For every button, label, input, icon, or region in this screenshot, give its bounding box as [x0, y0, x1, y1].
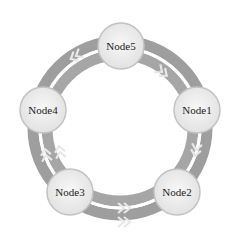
node-node2[interactable]: Node2 — [154, 169, 200, 215]
node-label: Node5 — [106, 40, 136, 52]
node-node4[interactable]: Node4 — [20, 87, 66, 133]
node-label: Node3 — [55, 186, 85, 198]
node-node3[interactable]: Node3 — [47, 169, 93, 215]
node-label: Node1 — [182, 104, 211, 116]
ring-topology-diagram: Node5 Node1 Node2 Node3 Node4 — [0, 0, 238, 242]
node-label: Node2 — [162, 186, 191, 198]
node-node5[interactable]: Node5 — [98, 23, 144, 69]
node-label: Node4 — [28, 104, 58, 116]
node-node1[interactable]: Node1 — [174, 87, 220, 133]
